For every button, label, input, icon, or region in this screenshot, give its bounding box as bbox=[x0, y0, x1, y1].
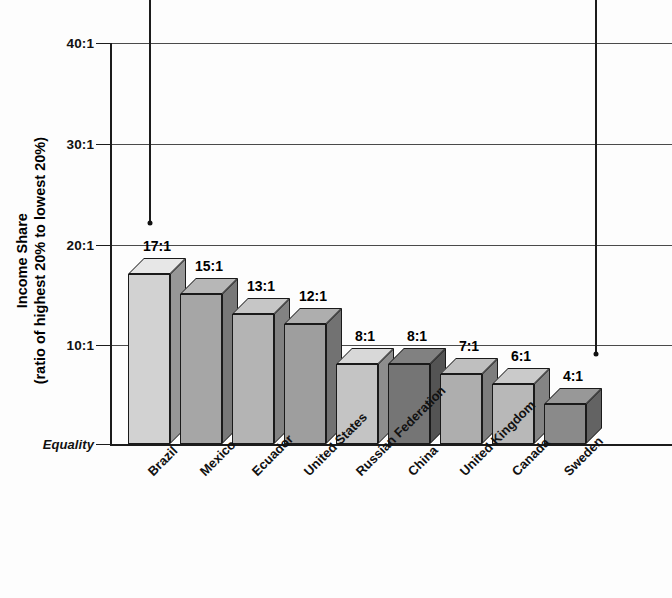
left-leader-line bbox=[149, 0, 151, 223]
right-leader-line-dot bbox=[594, 351, 599, 356]
annotation-layer bbox=[0, 0, 672, 598]
right-leader-line bbox=[595, 0, 597, 354]
income-share-bar-chart: 40:1 30:1 20:1 10:1 Equality Income Shar… bbox=[0, 0, 672, 598]
left-leader-line-dot bbox=[148, 221, 153, 226]
